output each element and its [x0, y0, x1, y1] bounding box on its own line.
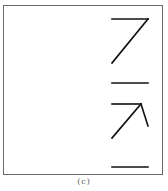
figure-strokes: [0, 0, 168, 191]
arrow-shape: [112, 104, 148, 138]
figure-caption: (c): [0, 177, 168, 186]
seven-shape: [112, 19, 148, 63]
